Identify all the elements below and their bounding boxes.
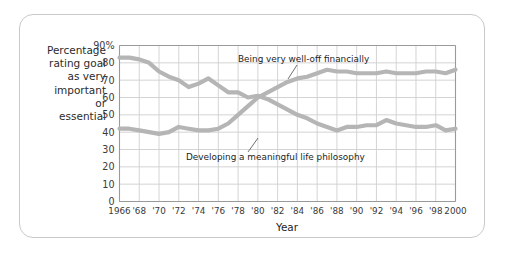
x-axis-tick-label: '86 — [310, 206, 324, 216]
figure-root: Percentage rating goal as very important… — [0, 0, 506, 255]
x-axis-tick-label: '68 — [132, 206, 146, 216]
y-axis-tick-label: 40 — [102, 127, 114, 138]
x-axis-tick-label: '82 — [271, 206, 285, 216]
y-axis-tick-label: 50 — [102, 109, 114, 120]
x-axis-tick-labels: 1966'68'70'72'74'76'78'80'82'84'86'88'90… — [108, 206, 467, 216]
y-axis-tick-label: 30 — [102, 144, 114, 155]
x-axis-tick-label: '78 — [231, 206, 245, 216]
x-axis-tick-label: '96 — [409, 206, 423, 216]
x-axis-tick-label: '90 — [350, 206, 364, 216]
line-chart: 90%80706050403020100 1966'68'70'72'74'76… — [0, 0, 506, 255]
x-axis-tick-label: '84 — [291, 206, 305, 216]
x-axis-tick-label: '74 — [192, 206, 206, 216]
x-axis-tick-label: '98 — [429, 206, 443, 216]
series-annotation-label: Being very well-off financially — [238, 54, 369, 64]
x-axis-tick-label: '70 — [152, 206, 166, 216]
x-axis-tick-label: '76 — [212, 206, 226, 216]
y-axis-tick-labels: 90%80706050403020100 — [93, 40, 114, 207]
y-axis-tick-label: 60 — [102, 92, 114, 103]
y-axis-tick-label: 90% — [93, 40, 114, 51]
plot-container: 90%80706050403020100 1966'68'70'72'74'76… — [0, 0, 506, 255]
y-axis-tick-label: 20 — [102, 161, 114, 172]
y-axis-tick-label: 10 — [102, 179, 114, 190]
x-axis-title: Year — [275, 221, 299, 233]
y-axis-tick-label: 70 — [102, 75, 114, 86]
x-axis-tick-label: '80 — [251, 206, 265, 216]
series-annotation-label: Developing a meaningful life philosophy — [186, 152, 365, 162]
x-axis-tick-label: 1966 — [108, 206, 131, 216]
x-axis-tick-label: '94 — [389, 206, 403, 216]
x-axis-tick-label: 2000 — [444, 206, 467, 216]
y-axis-tick-label: 80 — [102, 57, 114, 68]
x-axis-tick-label: '92 — [370, 206, 384, 216]
x-axis-tick-label: '88 — [330, 206, 344, 216]
x-axis-tick-label: '72 — [172, 206, 186, 216]
